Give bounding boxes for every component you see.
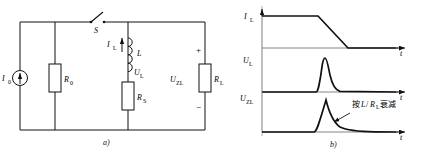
svg-text:S: S bbox=[143, 98, 146, 104]
svg-text:R: R bbox=[63, 75, 69, 84]
resistor-r0-label: R 0 bbox=[63, 75, 73, 86]
inductor-label: L bbox=[136, 49, 142, 58]
chart-il: I L t bbox=[243, 9, 405, 58]
uzl-label: U ZL bbox=[170, 75, 184, 86]
current-source-label: I 0 bbox=[1, 74, 11, 85]
uzl-x-label: t bbox=[400, 133, 403, 142]
caption-panel-b: b) bbox=[330, 140, 337, 149]
resistor-icon-rl bbox=[199, 64, 211, 92]
ul-label: U L bbox=[134, 68, 144, 79]
svg-text:L: L bbox=[220, 80, 224, 86]
current-source-icon bbox=[13, 71, 28, 86]
svg-text:ZL: ZL bbox=[176, 80, 184, 86]
svg-text:R: R bbox=[136, 93, 142, 102]
ul-y-label: U L bbox=[243, 56, 253, 67]
uzl-y-label: U ZL bbox=[240, 94, 254, 105]
polarity-minus: − bbox=[196, 102, 201, 112]
chart-ul: U L t bbox=[243, 48, 405, 102]
svg-text:L: L bbox=[140, 73, 144, 79]
figure-container: S I 0 R 0 I L L U L bbox=[0, 0, 423, 158]
resistor-rs-label: R S bbox=[136, 93, 146, 104]
inductor-coil-icon bbox=[128, 38, 132, 72]
svg-text:按: 按 bbox=[352, 99, 360, 109]
svg-text:I: I bbox=[106, 40, 110, 49]
svg-text:0: 0 bbox=[8, 79, 11, 85]
svg-text:0: 0 bbox=[70, 80, 73, 86]
circuit-outline bbox=[20, 22, 205, 130]
caption-panel-a: a) bbox=[103, 138, 110, 147]
svg-text:I: I bbox=[1, 74, 5, 83]
decay-annotation: 按 L / R L 衰减 bbox=[352, 99, 396, 110]
svg-text:I: I bbox=[243, 12, 247, 21]
svg-text:L: L bbox=[249, 61, 253, 67]
resistor-rl-label: R L bbox=[213, 75, 224, 86]
svg-text:衰减: 衰减 bbox=[380, 99, 396, 109]
ul-curve bbox=[262, 58, 396, 92]
svg-text:ZL: ZL bbox=[246, 99, 254, 105]
waveform-panel: I L t U L t bbox=[240, 6, 405, 142]
svg-text:L: L bbox=[113, 45, 117, 51]
switch-open-icon[interactable] bbox=[90, 12, 106, 23]
switch-label: S bbox=[94, 26, 98, 35]
il-label: I L bbox=[106, 40, 117, 51]
figure-svg: S I 0 R 0 I L L U L bbox=[0, 0, 423, 158]
decay-annotation-leader bbox=[334, 113, 350, 122]
ul-x-label: t bbox=[400, 93, 403, 102]
il-x-label: t bbox=[400, 49, 403, 58]
svg-text:/: / bbox=[366, 100, 369, 109]
il-curve bbox=[262, 16, 396, 48]
svg-text:R: R bbox=[213, 75, 219, 84]
svg-text:R: R bbox=[369, 100, 375, 109]
resistor-icon-r0 bbox=[49, 64, 61, 92]
svg-text:L: L bbox=[250, 17, 254, 23]
chart-uzl: U ZL t 按 L / R L 衰减 bbox=[240, 92, 405, 142]
polarity-plus: + bbox=[196, 45, 201, 55]
resistor-icon-rs bbox=[122, 82, 134, 110]
circuit-panel: S I 0 R 0 I L L U L bbox=[1, 12, 224, 130]
il-y-label: I L bbox=[243, 12, 254, 23]
